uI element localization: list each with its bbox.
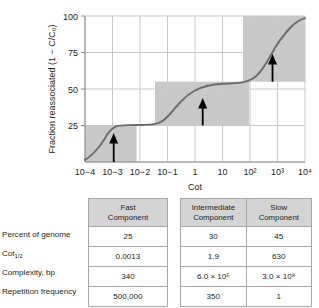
fast-cot-half-value: 0.0013 [89,247,168,267]
row-label-cot-half: Cot1/2 [2,244,86,263]
intermediate-slow-component-table: Intermediate Component Slow Component 30… [180,198,312,307]
table-row: 6.0 × 10⁵ 3.0 × 10⁸ [181,267,312,287]
table-header-row: Fast Component [89,199,168,227]
fast-component-header-line2: Component [89,213,167,223]
fast-repetition-frequency-value: 500,000 [89,287,168,307]
fast-complexity-value: 340 [89,267,168,287]
x-tick-label-8: 10³ [271,167,284,177]
table-row-labels: Percent of genome Cot1/2 Complexity, bp … [2,225,86,301]
y-tick-label-100: 100 [63,12,78,22]
row-label-percent-of-genome-text: Percent of genome [2,230,70,239]
x-tick-label-4: 10−1 [157,167,177,177]
y-axis-ticks [81,16,85,126]
table-row: 350 1 [181,287,312,307]
fast-component-table: Fast Component 25 0.0013 340 500,000 [88,198,168,307]
row-label-percent-of-genome: Percent of genome [2,225,86,244]
table-row: 30 45 [181,227,312,247]
y-tick-label-50: 50 [68,85,78,95]
intermediate-component-header: Intermediate Component [181,199,247,227]
component-tables: Percent of genome Cot1/2 Complexity, bp … [0,196,319,308]
x-tick-label-9: 10⁴ [298,167,312,177]
fast-component-header: Fast Component [89,199,168,227]
intermediate-component-header-line1: Intermediate [181,203,246,213]
x-tick-label-6: 10 [217,167,227,177]
slow-percent-of-genome-value: 45 [246,227,311,247]
x-tick-label-1: 10−4 [75,167,95,177]
table-header-row: Intermediate Component Slow Component [181,199,312,227]
intermediate-cot-half-value: 1.9 [181,247,247,267]
row-label-repetition-frequency: Repetition frequency [2,282,86,301]
x-tick-label-7: 10² [243,167,256,177]
row-label-cot-half-text: Cot [2,249,15,258]
table-row: 25 [89,227,168,247]
cot-curve-chart: 100 75 50 25 Fraction reassociated (1 − … [0,0,319,196]
x-tick-label-2: 10−3 [102,167,122,177]
slow-component-header: Slow Component [246,199,311,227]
y-tick-label-75: 75 [68,48,78,58]
y-axis-title: Fraction reassociated (1 − C/C₀) [47,24,57,153]
slow-repetition-frequency-value: 1 [246,287,311,307]
table-row: 0.0013 [89,247,168,267]
row-label-repetition-frequency-text: Repetition frequency [2,287,76,296]
x-tick-label-3: 10−2 [130,167,150,177]
intermediate-complexity-value: 6.0 × 10⁵ [181,267,247,287]
slow-cot-half-value: 630 [246,247,311,267]
slow-component-header-line1: Slow [247,203,311,213]
fast-component-header-line1: Fast [89,203,167,213]
table-row: 500,000 [89,287,168,307]
row-label-complexity-text: Complexity, bp [2,268,55,277]
y-tick-label-25: 25 [68,121,78,131]
slow-component-header-line2: Component [247,213,311,223]
slow-complexity-value: 3.0 × 10⁸ [246,267,311,287]
fast-percent-of-genome-value: 25 [89,227,168,247]
intermediate-percent-of-genome-value: 30 [181,227,247,247]
x-tick-label-5: 1 [192,167,197,177]
intermediate-repetition-frequency-value: 350 [181,287,247,307]
row-label-complexity: Complexity, bp [2,263,86,282]
intermediate-component-header-line2: Component [181,213,246,223]
table-row: 1.9 630 [181,247,312,267]
x-axis-title: Cot [188,182,203,192]
cot-curve-figure: 100 75 50 25 Fraction reassociated (1 − … [0,0,319,196]
row-label-cot-half-subscript: 1/2 [15,253,23,259]
table-row: 340 [89,267,168,287]
